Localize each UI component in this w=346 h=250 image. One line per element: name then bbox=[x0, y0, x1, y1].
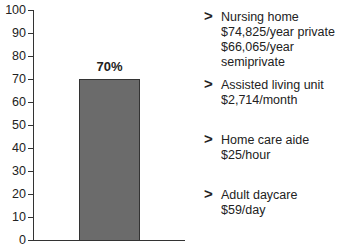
chevron-right-icon: > bbox=[204, 76, 213, 91]
chevron-right-icon: > bbox=[204, 131, 213, 146]
legend-item-assisted-living: > Assisted living unit $2,714/month bbox=[205, 78, 324, 108]
legend-item-adult-daycare: > Adult daycare $59/day bbox=[205, 188, 297, 218]
bar-value-label: 70% bbox=[79, 59, 140, 74]
y-tick-label: 50 bbox=[0, 119, 26, 131]
bar-70 bbox=[79, 79, 140, 241]
legend-detail: $66,065/year semiprivate bbox=[221, 40, 346, 70]
legend-detail: $2,714/month bbox=[221, 93, 324, 108]
y-tick bbox=[28, 79, 33, 80]
chevron-right-icon: > bbox=[204, 186, 213, 201]
y-axis bbox=[33, 10, 34, 241]
legend-heading: Assisted living unit bbox=[221, 78, 324, 93]
y-tick bbox=[28, 171, 33, 172]
y-tick bbox=[28, 240, 33, 241]
chevron-right-icon: > bbox=[204, 8, 213, 23]
y-tick-label: 60 bbox=[0, 96, 26, 108]
y-tick-label: 90 bbox=[0, 27, 26, 39]
y-tick bbox=[28, 56, 33, 57]
y-tick-label: 70 bbox=[0, 73, 26, 85]
y-tick bbox=[28, 194, 33, 195]
legend-detail: $74,825/year private bbox=[221, 25, 346, 40]
y-tick-label: 40 bbox=[0, 142, 26, 154]
legend-heading: Nursing home bbox=[221, 10, 346, 25]
legend-detail: $59/day bbox=[221, 203, 297, 218]
y-tick bbox=[28, 217, 33, 218]
y-tick-label: 30 bbox=[0, 165, 26, 177]
y-tick-label: 100 bbox=[0, 4, 26, 16]
y-tick-label: 0 bbox=[0, 234, 26, 246]
y-tick bbox=[28, 10, 33, 11]
y-tick-label: 20 bbox=[0, 188, 26, 200]
legend-heading: Home care aide bbox=[221, 133, 309, 148]
y-tick bbox=[28, 125, 33, 126]
y-tick-label: 10 bbox=[0, 211, 26, 223]
y-tick bbox=[28, 148, 33, 149]
legend-item-nursing-home: > Nursing home $74,825/year private $66,… bbox=[205, 10, 346, 70]
y-tick bbox=[28, 33, 33, 34]
y-tick-label: 80 bbox=[0, 50, 26, 62]
legend-item-home-care-aide: > Home care aide $25/hour bbox=[205, 133, 309, 163]
y-tick bbox=[28, 102, 33, 103]
legend-heading: Adult daycare bbox=[221, 188, 297, 203]
legend-detail: $25/hour bbox=[221, 148, 309, 163]
